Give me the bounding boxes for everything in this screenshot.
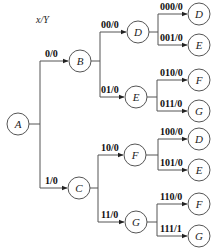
svg-text:D: D (194, 133, 203, 145)
edge-f-d: 100/0 (146, 126, 187, 155)
svg-text:100/0: 100/0 (160, 126, 183, 137)
svg-text:F: F (131, 149, 139, 161)
state-tree-diagram: x/Y 0/0 1/0 00/0 01/0 10/0 11/0 000/0 00… (0, 0, 213, 251)
edge-c-g: 11/0 (98, 188, 124, 222)
edge-b-d: 00/0 (91, 19, 126, 61)
svg-text:G: G (195, 230, 203, 242)
node-d-level3-a: D (188, 3, 210, 25)
svg-text:E: E (132, 91, 140, 103)
svg-text:F: F (195, 74, 203, 86)
node-e-level3-a: E (188, 34, 210, 56)
svg-text:0/0: 0/0 (45, 48, 58, 59)
node-g-level3-a: G (188, 100, 210, 122)
node-e-level3-b: E (188, 159, 210, 181)
edge-e-g: 011/0 (157, 97, 187, 111)
node-b: B (69, 50, 91, 72)
svg-text:1/0: 1/0 (45, 175, 58, 186)
svg-text:D: D (194, 8, 203, 20)
svg-text:110/0: 110/0 (160, 191, 182, 202)
node-g-level3-b: G (188, 225, 210, 247)
edge-d-e: 001/0 (158, 32, 187, 45)
svg-text:G: G (195, 105, 203, 117)
legend-title: x/Y (35, 14, 50, 25)
edge-d-d: 000/0 (149, 1, 187, 32)
svg-text:F: F (195, 198, 203, 210)
svg-text:111/1: 111/1 (160, 223, 182, 234)
node-d-level3-b: D (188, 128, 210, 150)
svg-text:C: C (75, 182, 83, 194)
svg-text:10/0: 10/0 (101, 142, 119, 153)
svg-text:001/0: 001/0 (160, 32, 183, 43)
node-d-level2: D (127, 21, 149, 43)
node-f-level3-a: F (188, 69, 210, 91)
node-f-level2: F (124, 144, 146, 166)
svg-text:101/0: 101/0 (160, 157, 183, 168)
node-f-level3-b: F (188, 193, 210, 215)
svg-text:00/0: 00/0 (101, 19, 119, 30)
edge-b-e: 01/0 (100, 61, 124, 97)
svg-text:E: E (195, 39, 203, 51)
svg-text:000/0: 000/0 (160, 1, 183, 12)
node-a: A (7, 113, 29, 135)
svg-text:010/0: 010/0 (160, 67, 183, 78)
svg-text:011/0: 011/0 (160, 98, 182, 109)
svg-text:D: D (133, 26, 142, 38)
svg-text:B: B (77, 55, 84, 67)
node-c: C (68, 177, 90, 199)
edge-a-b: 0/0 (29, 48, 68, 124)
edge-f-e: 101/0 (158, 155, 187, 170)
svg-text:G: G (132, 216, 140, 228)
svg-text:E: E (195, 164, 203, 176)
edge-c-f: 10/0 (90, 142, 123, 188)
edge-e-f: 010/0 (147, 67, 187, 97)
edge-g-g: 111/1 (157, 222, 187, 236)
svg-text:11/0: 11/0 (101, 209, 118, 220)
edge-g-f: 110/0 (147, 191, 187, 222)
edge-a-c: 1/0 (40, 124, 67, 188)
svg-text:A: A (14, 118, 22, 130)
node-e-level2: E (125, 86, 147, 108)
node-g-level2: G (125, 211, 147, 233)
svg-text:01/0: 01/0 (101, 84, 119, 95)
